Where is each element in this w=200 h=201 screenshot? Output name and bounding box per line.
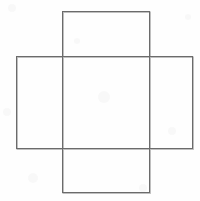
shape-shadows xyxy=(17,12,193,193)
figure-canvas xyxy=(0,0,200,201)
vertical-rectangle-shadow xyxy=(63,12,150,193)
vertical-rectangle[interactable] xyxy=(63,12,150,193)
overlapping-rectangles-figure xyxy=(0,0,200,201)
horizontal-rectangle[interactable] xyxy=(17,57,193,149)
horizontal-rectangle-shadow xyxy=(17,57,193,149)
shape-outlines xyxy=(17,12,193,193)
